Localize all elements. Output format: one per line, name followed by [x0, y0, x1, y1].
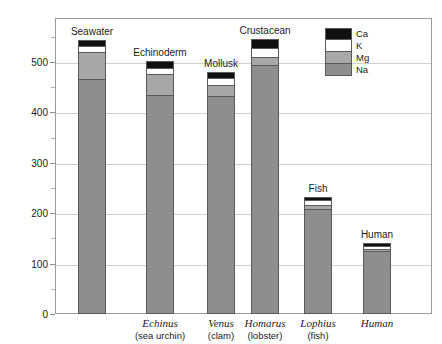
legend-swatch-mg	[325, 52, 352, 64]
x-label-scientific: Homarus	[245, 317, 286, 330]
y-tick-minor	[51, 188, 55, 189]
y-tick-minor	[51, 37, 55, 38]
gridline	[56, 113, 431, 114]
bar-segment-mg	[147, 74, 173, 95]
legend-swatch-k	[325, 40, 352, 52]
bar-top-label-seawater: Seawater	[71, 26, 113, 37]
bar-human	[363, 243, 391, 314]
bar-segment-k	[208, 78, 234, 85]
legend-row-na: Na	[325, 64, 403, 76]
legend-label-ca: Ca	[352, 28, 368, 40]
legend-label-na: Na	[352, 64, 368, 76]
bar-top-label-lophius: Fish	[309, 183, 328, 194]
bar-segment-na	[305, 209, 331, 313]
y-tick-label: 400	[0, 107, 55, 118]
bar-segment-na	[208, 96, 234, 313]
gridline	[56, 164, 431, 165]
y-tick-label: 0	[0, 309, 55, 320]
legend: CaKMgNa	[325, 28, 403, 76]
bar-lophius	[304, 197, 332, 314]
x-label-scientific: Human	[361, 317, 393, 330]
bar-segment-ca	[252, 40, 278, 48]
bar-echinus	[146, 61, 174, 314]
x-label-common: (clam)	[208, 330, 234, 341]
legend-row-k: K	[325, 40, 403, 52]
x-label-common: (fish)	[300, 330, 335, 341]
x-label-common: (lobster)	[245, 330, 286, 341]
bar-segment-mg	[79, 52, 105, 79]
bar-homarus	[251, 39, 279, 314]
x-label-venus: Venus(clam)	[208, 317, 234, 341]
bar-seawater	[78, 40, 106, 314]
bar-segment-mg	[252, 57, 278, 65]
y-tick-label: 500	[0, 57, 55, 68]
legend-row-ca: Ca	[325, 28, 403, 40]
bar-segment-mg	[208, 85, 234, 96]
legend-row-mg: Mg	[325, 52, 403, 64]
x-label-echinus: Echinus(sea urchin)	[135, 317, 185, 341]
y-tick-label: 100	[0, 258, 55, 269]
y-tick-minor	[51, 238, 55, 239]
y-tick-minor	[51, 87, 55, 88]
bar-top-label-human: Human	[361, 229, 393, 240]
bar-segment-na	[147, 95, 173, 313]
y-tick-minor	[51, 138, 55, 139]
legend-swatch-na	[325, 64, 352, 76]
x-label-lophius: Lophius(fish)	[300, 317, 335, 341]
x-label-scientific: Lophius	[300, 317, 335, 330]
x-label-homarus: Homarus(lobster)	[245, 317, 286, 341]
x-label-human: Human	[361, 317, 393, 330]
bar-top-label-venus: Mollusk	[204, 58, 238, 69]
y-tick-minor	[51, 289, 55, 290]
x-label-common: (sea urchin)	[135, 330, 185, 341]
bar-segment-na	[252, 65, 278, 313]
legend-label-mg: Mg	[352, 52, 369, 64]
y-tick-label: 300	[0, 157, 55, 168]
bar-top-label-homarus: Crustacean	[239, 25, 290, 36]
x-label-scientific: Echinus	[135, 317, 185, 330]
bar-top-label-echinus: Echinoderm	[133, 47, 186, 58]
legend-label-k: K	[352, 40, 362, 52]
bar-segment-na	[79, 79, 105, 313]
legend-swatch-ca	[325, 28, 352, 40]
bar-venus	[207, 72, 235, 314]
figure: 0100200300400500 Concentration (mmole/li…	[0, 0, 442, 344]
bar-segment-na	[364, 251, 390, 313]
bar-segment-k	[252, 48, 278, 57]
y-tick-label: 200	[0, 208, 55, 219]
gridline	[56, 214, 431, 215]
x-label-scientific: Venus	[208, 317, 234, 330]
